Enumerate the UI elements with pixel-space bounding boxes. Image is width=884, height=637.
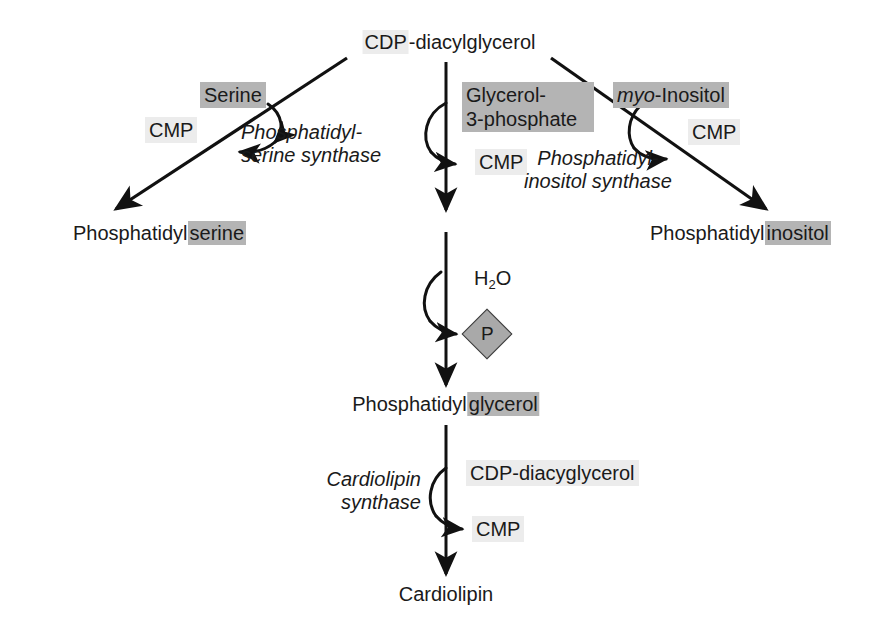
substrate-myo-inositol: myo-Inositol [613,82,729,108]
substrate-serine: Serine [200,82,266,108]
pathway-arrows-layer [0,0,884,637]
cdp-highlight: CDP [363,30,409,54]
enzyme-ps-line2: serine synthase [241,144,381,167]
curved-arrow-myoinositol-cmp [629,106,640,148]
node-phosphatidylserine: Phosphatidylserine [73,221,246,245]
enzyme-cl-line2: synthase [285,491,421,514]
water-o: O [496,267,512,289]
glycerol3p-line1: Glycerol- [466,83,590,107]
cdp-plain: -diacylglycerol [409,31,536,53]
pi-plain: Phosphatidyl [650,222,765,244]
pi-highlight: inositol [765,221,831,245]
node-cardiolipin: Cardiolipin [399,582,494,606]
enzyme-pi-line1: Phosphatidyl- [524,147,672,170]
substrate-water: H2O [474,266,511,297]
curved-arrow-water-phosphate [424,272,441,321]
enzyme-ps-line1: Phosphatidyl- [241,121,381,144]
product-cmp-cardiolipin-branch: CMP [472,516,524,542]
product-cmp-serine-branch: CMP [145,117,197,143]
substrate-glycerol-3-phosphate: Glycerol- 3-phosphate [462,82,594,132]
water-subscript: 2 [488,277,495,292]
node-phosphatidylinositol: Phosphatidylinositol [650,221,831,245]
node-cdp-diacylglycerol: CDP-diacylglycerol [363,30,536,54]
myo-italic: myo [617,84,655,106]
enzyme-pi-line2: inositol synthase [524,170,672,193]
substrate-cdp-diacyglycerol: CDP-diacyglycerol [466,460,639,486]
enzyme-phosphatidylserine-synthase: Phosphatidyl- serine synthase [241,121,381,167]
product-cmp-inositol-branch: CMP [688,119,740,145]
pg-plain: Phosphatidyl [352,393,467,415]
enzyme-cardiolipin-synthase: Cardiolipin synthase [285,468,421,514]
enzyme-phosphatidylinositol-synthase: Phosphatidyl- inositol synthase [524,147,672,193]
curved-arrow-glycerol3p-cmp [426,103,446,152]
node-phosphatidylglycerol: Phosphatidylglycerol [352,392,539,416]
ps-plain: Phosphatidyl [73,222,188,244]
glycerol3p-line2: 3-phosphate [466,107,590,131]
phosphate-label: P [481,323,494,345]
product-cmp-glycerol-branch: CMP [475,149,527,175]
enzyme-cl-line1: Cardiolipin [285,468,421,491]
curved-arrow-cdp-cmp-head [436,516,462,529]
curved-arrow-cdp-cmp [430,468,446,516]
curved-arrow-water-phosphate-head [430,321,456,334]
curved-arrow-glycerol3p-cmp-head [431,152,455,164]
pg-highlight: glycerol [467,392,540,416]
pathway-diagram: CDP-diacylglycerol Serine CMP Phosphatid… [0,0,884,637]
ps-highlight: serine [188,221,246,245]
myo-rest: -Inositol [655,84,725,106]
water-h: H [474,267,488,289]
